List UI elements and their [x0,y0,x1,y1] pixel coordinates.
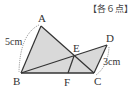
label-d: D [106,32,114,44]
label-b: B [13,75,20,87]
points-label: 【各６点】 [88,3,133,14]
measure-ab: 5cm [5,36,22,47]
label-e: E [73,42,80,54]
label-a: A [38,12,46,24]
geometry-figure: A B C D E F 5cm 3cm 【各６点】 [0,0,136,92]
measure-cd: 3cm [103,56,120,67]
label-f: F [64,76,70,88]
label-c: C [94,75,101,87]
